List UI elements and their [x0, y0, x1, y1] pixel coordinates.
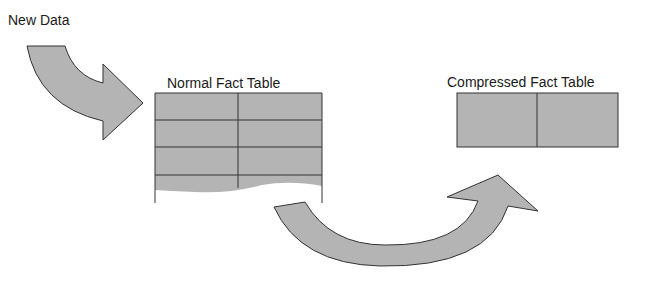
- compression-arrow-icon: [274, 175, 538, 266]
- incoming-data-arrow-icon: [27, 46, 143, 140]
- diagram-canvas: [0, 0, 653, 288]
- normal-fact-table: [155, 93, 322, 203]
- compressed-fact-table: [457, 93, 618, 147]
